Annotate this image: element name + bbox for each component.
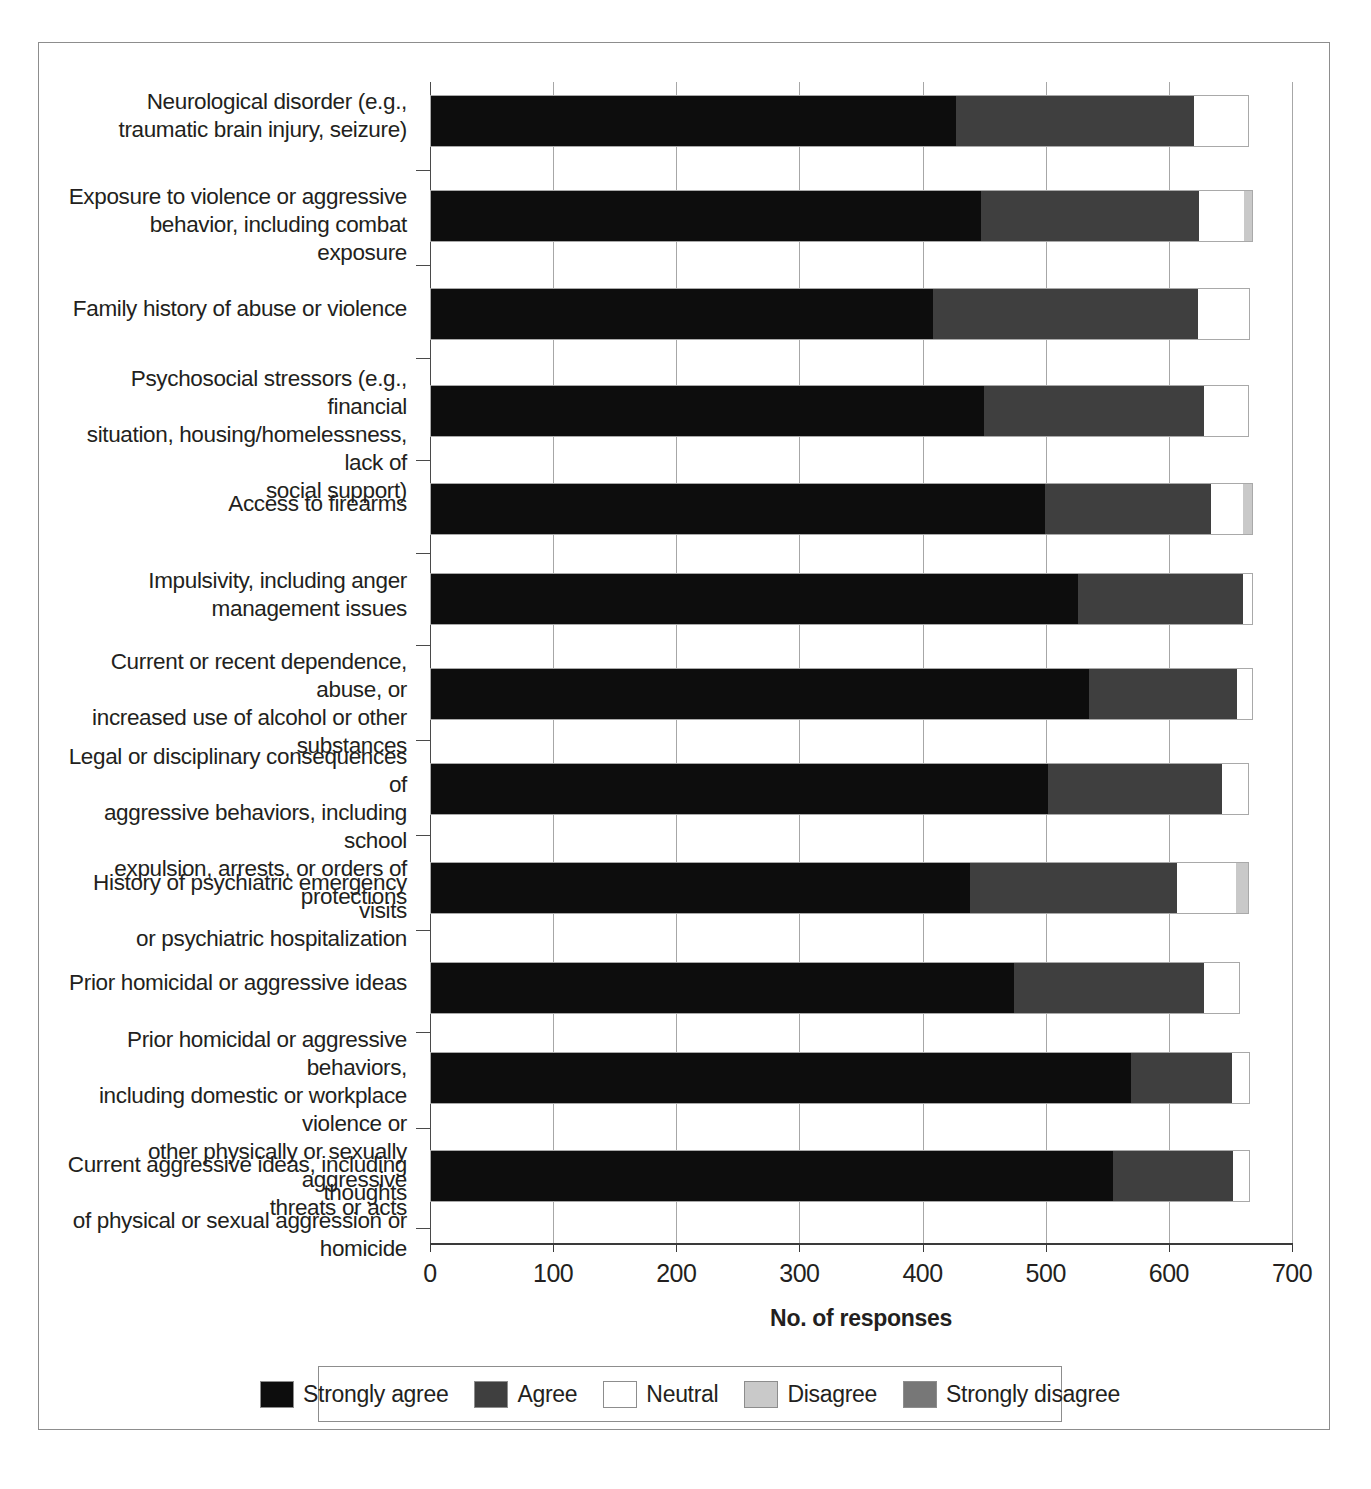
bar-segment-strongly-agree — [431, 574, 1078, 624]
bar-segment-strongly-agree — [431, 863, 970, 913]
category-label: Exposure to violence or aggressivebehavi… — [62, 183, 407, 267]
legend-swatch-agree — [474, 1381, 508, 1408]
bar-segment-strongly-agree — [431, 764, 1048, 814]
x-tick-label-500: 500 — [1026, 1258, 1066, 1288]
legend-label: Agree — [517, 1381, 577, 1408]
category-label-line: Family history of abuse or violence — [62, 295, 407, 323]
category-label-line: management issues — [62, 595, 407, 623]
y-axis-tick — [416, 460, 430, 461]
bar-segment-neutral — [1233, 1151, 1249, 1201]
x-tick-label-400: 400 — [902, 1258, 942, 1288]
bar-segment-agree — [1131, 1053, 1232, 1103]
category-label-line: Current aggressive ideas, including thou… — [62, 1151, 407, 1207]
stacked-bar-chart: No. of responses Strongly agreeAgreeNeut… — [0, 0, 1371, 1489]
bar-row[interactable] — [430, 862, 1249, 914]
bar-segment-agree — [970, 863, 1176, 913]
legend-label: Neutral — [646, 1381, 718, 1408]
bar-segment-neutral — [1222, 764, 1248, 814]
y-axis-tick — [416, 358, 430, 359]
bar-segment-neutral — [1177, 863, 1236, 913]
y-axis-tick — [416, 835, 430, 836]
category-label-line: Exposure to violence or aggressive — [62, 183, 407, 211]
x-axis-title: No. of responses — [430, 1305, 1292, 1332]
chart-legend: Strongly agreeAgreeNeutralDisagreeStrong… — [318, 1366, 1062, 1422]
bar-row[interactable] — [430, 763, 1249, 815]
bar-segment-strongly-agree — [431, 1053, 1131, 1103]
category-label: Family history of abuse or violence — [62, 295, 407, 323]
bar-row[interactable] — [430, 573, 1253, 625]
bar-segment-neutral — [1243, 574, 1252, 624]
x-tick-500 — [1046, 1243, 1047, 1252]
y-axis-tick — [416, 553, 430, 554]
bar-segment-agree — [981, 191, 1198, 241]
x-tick-0 — [430, 1243, 431, 1252]
legend-swatch-disagree — [744, 1381, 778, 1408]
x-tick-label-600: 600 — [1149, 1258, 1189, 1288]
legend-item[interactable]: Agree — [474, 1381, 577, 1408]
x-tick-600 — [1169, 1243, 1170, 1252]
x-tick-label-300: 300 — [779, 1258, 819, 1288]
bar-row[interactable] — [430, 385, 1249, 437]
x-tick-label-700: 700 — [1272, 1258, 1312, 1288]
legend-item[interactable]: Strongly disagree — [903, 1381, 1120, 1408]
bar-segment-agree — [1078, 574, 1243, 624]
legend-label: Disagree — [787, 1381, 877, 1408]
y-axis-tick — [416, 1128, 430, 1129]
bar-row[interactable] — [430, 288, 1250, 340]
bar-segment-agree — [1048, 764, 1222, 814]
chart-title — [0, 0, 1371, 8]
legend-item[interactable]: Disagree — [744, 1381, 877, 1408]
x-tick-label-0: 0 — [423, 1258, 436, 1288]
y-axis-tick — [416, 930, 430, 931]
category-label-line: including domestic or workplace violence… — [62, 1082, 407, 1138]
x-tick-label-100: 100 — [533, 1258, 573, 1288]
category-label-line: Current or recent dependence, abuse, or — [62, 648, 407, 704]
bar-row[interactable] — [430, 962, 1240, 1014]
legend-item[interactable]: Neutral — [603, 1381, 718, 1408]
category-label: Neurological disorder (e.g.,traumatic br… — [62, 88, 407, 144]
x-tick-400 — [923, 1243, 924, 1252]
bar-segment-agree — [956, 96, 1194, 146]
bar-segment-agree — [1089, 669, 1236, 719]
category-label-line: Legal or disciplinary consequences of — [62, 743, 407, 799]
bar-segment-agree — [933, 289, 1197, 339]
bar-row[interactable] — [430, 668, 1253, 720]
gridline-700 — [1292, 82, 1293, 1243]
bar-segment-neutral — [1237, 669, 1252, 719]
category-label-line: of physical or sexual aggression or homi… — [62, 1207, 407, 1263]
category-label-line: aggressive behaviors, including school — [62, 799, 407, 855]
category-label: Access to firearms — [62, 490, 407, 518]
bar-segment-strongly-agree — [431, 386, 984, 436]
bar-segment-strongly-agree — [431, 289, 933, 339]
bar-segment-agree — [1014, 963, 1203, 1013]
legend-item[interactable]: Strongly agree — [260, 1381, 448, 1408]
bar-segment-strongly-agree — [431, 191, 981, 241]
category-label-line: Access to firearms — [62, 490, 407, 518]
y-axis-tick — [416, 170, 430, 171]
bar-row[interactable] — [430, 190, 1253, 242]
x-axis-line — [430, 1243, 1292, 1245]
category-label: Impulsivity, including angermanagement i… — [62, 567, 407, 623]
category-label-line: Prior homicidal or aggressive ideas — [62, 969, 407, 997]
category-label-line: Impulsivity, including anger — [62, 567, 407, 595]
bar-row[interactable] — [430, 483, 1253, 535]
y-axis-tick — [416, 1228, 430, 1229]
x-tick-label-200: 200 — [656, 1258, 696, 1288]
y-axis-tick — [416, 265, 430, 266]
category-label-line: traumatic brain injury, seizure) — [62, 116, 407, 144]
bar-segment-neutral — [1198, 289, 1250, 339]
bar-row[interactable] — [430, 1150, 1250, 1202]
bar-segment-agree — [1113, 1151, 1233, 1201]
bar-segment-neutral — [1194, 96, 1248, 146]
bar-segment-disagree — [1236, 863, 1248, 913]
bar-row[interactable] — [430, 1052, 1250, 1104]
x-tick-100 — [553, 1243, 554, 1252]
bar-segment-strongly-agree — [431, 669, 1089, 719]
category-label-line: Neurological disorder (e.g., — [62, 88, 407, 116]
y-axis-tick — [416, 740, 430, 741]
category-label: Current aggressive ideas, including thou… — [62, 1151, 407, 1263]
bar-segment-disagree — [1243, 484, 1252, 534]
bar-row[interactable] — [430, 95, 1249, 147]
legend-label: Strongly agree — [303, 1381, 448, 1408]
legend-label: Strongly disagree — [946, 1381, 1120, 1408]
